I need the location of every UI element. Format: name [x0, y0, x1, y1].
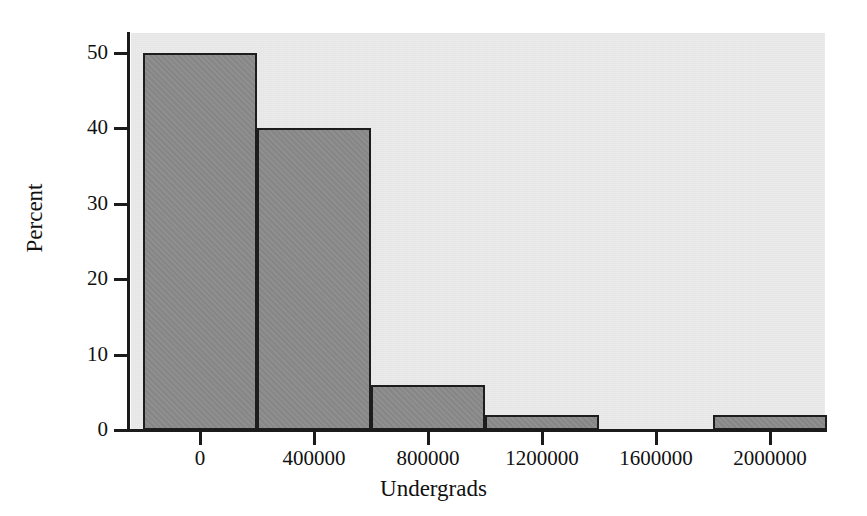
y-axis-tick-label: 50 — [68, 42, 108, 63]
y-axis-tick-mark — [114, 354, 127, 357]
bar-texture — [487, 417, 597, 428]
y-axis-tick-mark — [114, 429, 127, 432]
histogram-chart: 01020304050 0400000800000120000016000002… — [0, 0, 867, 516]
y-axis-title: Percent — [22, 143, 48, 293]
y-axis-tick-mark — [114, 52, 127, 55]
y-axis-tick-label: 40 — [68, 117, 108, 138]
y-axis-tick-mark — [114, 278, 127, 281]
y-axis-tick-label: 30 — [68, 193, 108, 214]
histogram-bar — [485, 415, 599, 430]
bar-texture — [145, 55, 255, 428]
x-axis-tick-label: 1600000 — [619, 448, 693, 469]
y-axis-tick-mark — [114, 203, 127, 206]
x-axis-tick-mark — [313, 432, 316, 445]
bar-texture — [373, 387, 483, 428]
x-axis-tick-label: 2000000 — [733, 448, 807, 469]
y-axis-spine — [127, 32, 130, 432]
x-axis-tick-label: 400000 — [283, 448, 346, 469]
bar-texture — [259, 130, 369, 428]
x-axis-tick-mark — [427, 432, 430, 445]
x-axis-tick-mark — [655, 432, 658, 445]
bar-texture — [715, 417, 825, 428]
x-axis-tick-label: 0 — [195, 448, 206, 469]
x-axis-spine — [128, 429, 827, 432]
y-axis-tick-mark — [114, 127, 127, 130]
x-axis-title: Undergrads — [0, 476, 867, 502]
x-axis-tick-label: 1200000 — [505, 448, 579, 469]
y-axis-tick-label: 20 — [68, 268, 108, 289]
histogram-bar — [713, 415, 827, 430]
histogram-bar — [371, 385, 485, 430]
x-axis-tick-mark — [199, 432, 202, 445]
y-axis-tick-label: 10 — [68, 344, 108, 365]
histogram-bar — [143, 53, 257, 430]
x-axis-tick-label: 800000 — [397, 448, 460, 469]
x-axis-tick-mark — [769, 432, 772, 445]
x-axis-tick-mark — [541, 432, 544, 445]
histogram-bar — [257, 128, 371, 430]
y-axis-tick-label: 0 — [68, 419, 108, 440]
